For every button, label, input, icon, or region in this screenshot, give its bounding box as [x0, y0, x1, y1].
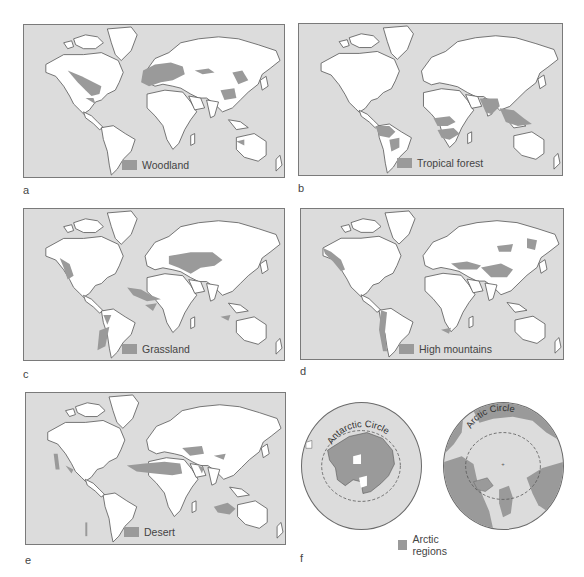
panel-label-c: c — [23, 368, 29, 380]
legend-text: High mountains — [419, 343, 492, 355]
world-map-svg — [301, 209, 563, 359]
panel-label-f: f — [300, 552, 303, 564]
legend-text: Grassland — [142, 343, 190, 355]
world-map-desert: Desert — [25, 392, 286, 545]
world-map-svg — [24, 25, 284, 177]
svg-text:+: + — [501, 461, 505, 467]
greenland-landmass — [499, 486, 513, 517]
legend-text: Woodland — [142, 159, 189, 171]
legend-tropical-forest: Tropical forest — [397, 157, 483, 169]
legend-swatch — [122, 344, 137, 354]
panel-label-b: b — [298, 182, 304, 194]
legend-text: Arctic regions — [412, 533, 452, 557]
legend-swatch — [397, 158, 412, 168]
legend-swatch — [124, 527, 139, 537]
north-america-landmass — [444, 456, 493, 529]
legend-swatch — [122, 160, 137, 170]
legend-desert: Desert — [124, 526, 175, 538]
north-polar-map: Arctic Circle + — [443, 402, 564, 530]
legend-swatch — [399, 344, 414, 354]
ice-shelf — [359, 476, 367, 488]
world-map-woodland: Woodland — [23, 24, 285, 178]
world-map-grassland: Grassland — [23, 208, 285, 361]
panel-label-d: d — [300, 365, 306, 377]
legend-grassland: Grassland — [122, 343, 190, 355]
world-map-svg — [299, 24, 562, 175]
legend-high-mountains: High mountains — [399, 343, 492, 355]
legend-text: Desert — [144, 526, 175, 538]
world-map-svg — [26, 393, 285, 544]
legend-woodland: Woodland — [122, 159, 189, 171]
legend-swatch — [398, 540, 407, 550]
world-map-svg — [24, 209, 284, 360]
panel-label-e: e — [25, 554, 31, 566]
world-map-tropical-forest: Tropical forest — [298, 23, 563, 176]
legend-arctic-regions: Arctic regions — [398, 533, 452, 557]
south-polar-map: Antarctic Circle — [301, 402, 422, 530]
antarctica-svg: Antarctic Circle — [302, 403, 421, 529]
panel-label-a: a — [23, 184, 29, 196]
legend-text: Tropical forest — [417, 157, 483, 169]
world-map-high-mountains: High mountains — [300, 208, 564, 360]
arctic-svg: Arctic Circle + — [444, 403, 563, 529]
scandinavia-landmass — [527, 462, 563, 513]
